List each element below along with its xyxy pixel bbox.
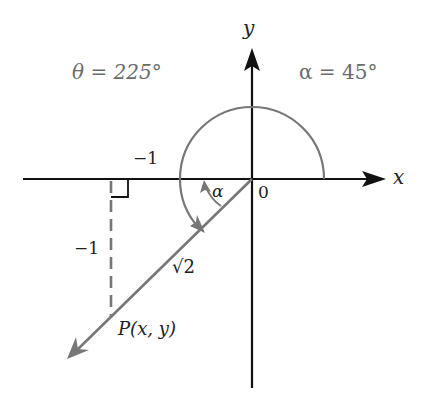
horizontal-leg-label: −1 xyxy=(133,150,158,167)
point-p-label: P(x, y) xyxy=(118,320,176,338)
right-angle-marker xyxy=(111,179,128,197)
y-axis-label: y xyxy=(243,18,254,38)
y-axis xyxy=(244,48,260,388)
x-axis-label: x xyxy=(393,167,404,187)
hypotenuse-label: √2 xyxy=(172,258,195,276)
theta-label: θ = 225° xyxy=(72,62,162,82)
alpha-arrow-icon xyxy=(200,180,211,193)
vertical-leg-label: −1 xyxy=(74,240,99,257)
alpha-value-label: α = 45° xyxy=(299,62,377,82)
alpha-symbol-label: α xyxy=(212,183,223,200)
origin-label: 0 xyxy=(258,184,269,201)
